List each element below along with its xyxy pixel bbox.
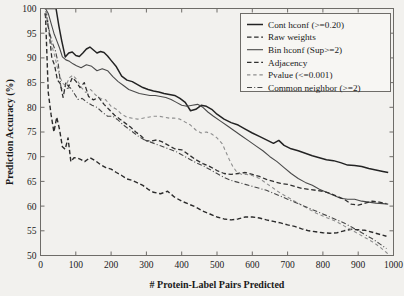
prediction-accuracy-line-chart: 01002003004005006007008009001000 5055606…	[0, 0, 404, 296]
x-tick-labels: 01002003004005006007008009001000	[38, 260, 403, 270]
x-tick-label: 0	[38, 260, 43, 270]
y-tick-label: 75	[27, 127, 37, 137]
chart-legend: Cont hconf (>=0.20)Raw weightsBin hconf …	[241, 14, 391, 93]
chart-figure: 01002003004005006007008009001000 5055606…	[0, 0, 404, 296]
x-tick-label: 900	[351, 260, 366, 270]
x-tick-label: 600	[245, 260, 260, 270]
y-tick-label: 100	[22, 4, 37, 14]
legend-label: Pvalue (<=0.001)	[268, 70, 332, 80]
x-axis-title: # Protein-Label Pairs Predicted	[150, 279, 285, 290]
y-tick-label: 50	[27, 251, 37, 261]
y-tick-label: 95	[27, 29, 37, 39]
legend-label: Cont hconf (>=0.20)	[268, 20, 344, 30]
y-tick-label: 65	[27, 177, 37, 187]
x-tick-label: 400	[175, 260, 190, 270]
x-tick-label: 300	[139, 260, 154, 270]
x-tick-label: 200	[104, 260, 119, 270]
x-tick-label: 1000	[384, 260, 403, 270]
y-tick-labels: 50556065707580859095100	[22, 4, 37, 261]
y-axis-title: Prediction Accuracy (%)	[4, 79, 16, 185]
y-tick-label: 85	[27, 78, 37, 88]
x-tick-label: 100	[69, 260, 84, 270]
legend-label: Common neighbor (>=2)	[268, 83, 361, 93]
legend-label: Adjacency	[268, 58, 308, 68]
y-tick-label: 70	[27, 152, 37, 162]
x-tick-label: 700	[280, 260, 295, 270]
x-tick-label: 500	[210, 260, 225, 270]
legend-label: Bin hconf (Sup>=2)	[268, 45, 342, 55]
y-tick-label: 80	[27, 103, 37, 113]
legend-label: Raw weights	[268, 32, 316, 42]
x-tick-label: 800	[316, 260, 331, 270]
y-tick-label: 60	[27, 202, 37, 212]
y-tick-label: 90	[27, 53, 37, 63]
y-tick-label: 55	[27, 226, 37, 236]
